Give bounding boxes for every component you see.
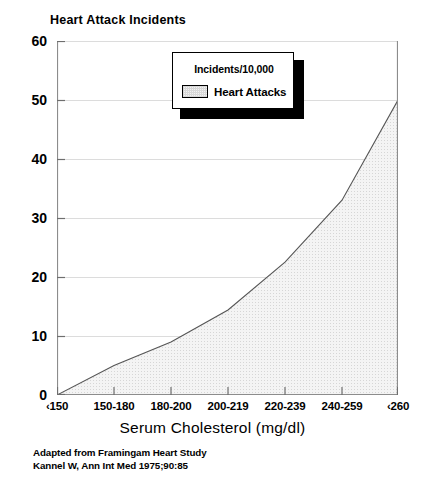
legend-entry-label: Heart Attacks <box>214 86 286 98</box>
y-axis-ticks <box>57 42 65 395</box>
x-tick-label-under-150: ‹150 <box>32 400 82 412</box>
legend-entry-heart-attacks: Heart Attacks <box>182 85 286 98</box>
y-tick-label-20: 20 <box>13 269 47 285</box>
legend-title: Incidents/10,000 <box>173 63 295 75</box>
y-tick-label-50: 50 <box>13 92 47 108</box>
source-line-2: Kannel W, Ann Int Med 1975;90:85 <box>33 459 207 472</box>
chart-figure: Heart Attack Incidents 60 50 40 30 20 10… <box>0 0 425 489</box>
legend-box: Incidents/10,000 Heart Attacks <box>172 52 294 109</box>
x-tick-label-over-260: ‹260 <box>373 400 423 412</box>
y-tick-label-10: 10 <box>13 328 47 344</box>
y-tick-label-60: 60 <box>13 33 47 49</box>
source-line-1: Adapted from Framingam Heart Study <box>33 446 207 459</box>
area-fill <box>57 100 398 395</box>
y-tick-label-30: 30 <box>13 210 47 226</box>
x-axis-title: Serum Cholesterol (mg/dl) <box>0 419 425 437</box>
y-tick-label-40: 40 <box>13 151 47 167</box>
chart-legend: Incidents/10,000 Heart Attacks <box>172 52 296 111</box>
chart-title: Heart Attack Incidents <box>50 13 186 27</box>
legend-swatch-icon <box>182 85 208 98</box>
source-note: Adapted from Framingam Heart Study Kanne… <box>33 446 207 472</box>
x-tick-label-240-259: 240-259 <box>307 400 377 412</box>
